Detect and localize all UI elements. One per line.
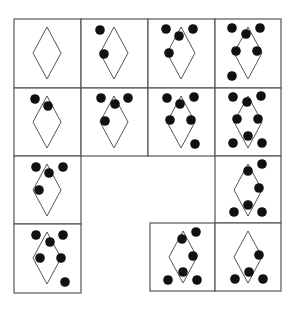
black-dot <box>257 138 267 148</box>
black-dot <box>163 275 173 285</box>
puzzle-cell-r2c3 <box>215 156 281 223</box>
black-dot <box>243 200 253 210</box>
black-dot <box>228 138 238 148</box>
black-dot <box>58 230 68 240</box>
black-dot <box>45 237 55 247</box>
cell-border <box>215 19 281 88</box>
black-dot <box>254 183 264 193</box>
black-dot <box>188 24 198 34</box>
black-dot <box>253 114 263 124</box>
cell-border <box>150 223 215 291</box>
black-dot <box>178 267 188 277</box>
black-dot <box>43 101 53 111</box>
black-dot <box>255 23 265 33</box>
black-dot <box>242 97 252 107</box>
puzzle-cell-r1c1 <box>81 88 148 156</box>
black-dot <box>254 250 264 260</box>
black-dot <box>34 185 44 195</box>
black-dot <box>231 46 241 56</box>
black-dot <box>230 274 240 284</box>
black-dot <box>30 94 40 104</box>
puzzle-cell-r2c0 <box>14 156 81 224</box>
black-dot <box>191 227 201 237</box>
cell-border <box>14 88 81 156</box>
black-dot <box>189 92 199 102</box>
puzzle-cell-r1c0 <box>14 88 81 156</box>
black-dot <box>58 162 68 172</box>
puzzle-cell-r0c0 <box>14 19 81 88</box>
black-dot <box>35 253 45 263</box>
black-dot <box>165 115 175 125</box>
puzzle-cell-r0c3 <box>215 19 281 88</box>
puzzle-cell-r0c1 <box>81 19 148 88</box>
black-dot <box>56 253 66 263</box>
cell-border <box>14 156 81 224</box>
black-dot <box>241 29 251 39</box>
puzzle-cell-r3c2 <box>150 223 215 291</box>
black-dot <box>257 207 267 217</box>
puzzle-cell-r0c2 <box>148 19 215 88</box>
black-dot <box>192 275 202 285</box>
black-dot <box>99 49 109 59</box>
cell-border <box>215 156 281 223</box>
black-dot <box>174 31 184 41</box>
puzzle-diagram <box>0 0 299 312</box>
cell-border <box>148 88 215 156</box>
black-dot <box>162 93 172 103</box>
black-dot <box>31 230 41 240</box>
black-dot <box>227 71 237 81</box>
black-dot <box>31 162 41 172</box>
puzzle-cell-r1c2 <box>148 88 215 156</box>
diamond-dot-pattern-grid <box>0 0 299 312</box>
black-dot <box>188 251 198 261</box>
black-dot <box>96 93 106 103</box>
black-dot <box>60 277 70 287</box>
puzzle-cell-r3c3 <box>215 223 281 291</box>
black-dot <box>252 46 262 56</box>
black-dot <box>227 23 237 33</box>
black-dot <box>256 91 266 101</box>
cell-border <box>215 223 281 291</box>
black-dot <box>110 99 120 109</box>
black-dot <box>177 234 187 244</box>
black-dot <box>258 274 268 284</box>
black-dot <box>100 116 110 126</box>
black-dot <box>190 139 200 149</box>
black-dot <box>243 131 253 141</box>
black-dot <box>123 93 133 103</box>
black-dot <box>161 24 171 34</box>
black-dot <box>229 207 239 217</box>
black-dot <box>95 25 105 35</box>
black-dot <box>243 166 253 176</box>
puzzle-cell-r1c3 <box>215 88 281 156</box>
black-dot <box>228 92 238 102</box>
black-dot <box>186 115 196 125</box>
black-dot <box>244 267 254 277</box>
black-dot <box>175 99 185 109</box>
puzzle-cell-r3c0 <box>14 224 81 293</box>
black-dot <box>232 114 242 124</box>
cell-border <box>81 88 148 156</box>
black-dot <box>44 168 54 178</box>
black-dot <box>164 48 174 58</box>
black-dot <box>257 159 267 169</box>
